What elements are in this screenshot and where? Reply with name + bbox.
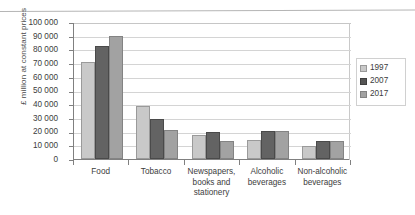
bar: [275, 131, 289, 159]
legend-label: 1997: [370, 64, 388, 72]
bar: [109, 36, 123, 159]
bar: [220, 141, 234, 159]
bar: [330, 141, 344, 159]
bar: [95, 46, 109, 159]
chart-legend: 199720072017: [356, 58, 406, 106]
bar: [261, 131, 275, 159]
bar: [316, 141, 330, 159]
bar: [247, 140, 261, 159]
bar: [302, 146, 316, 159]
x-tick-mark: [128, 160, 129, 165]
bar-group: [302, 22, 344, 159]
bar-group: [136, 22, 178, 159]
x-tick-mark: [73, 160, 74, 165]
bar-group: [247, 22, 289, 159]
y-tick-label: 100 000: [0, 19, 58, 27]
bar-group: [192, 22, 234, 159]
legend-swatch-icon: [360, 65, 367, 72]
bar: [150, 119, 164, 159]
y-tick-label: 50 000: [0, 87, 58, 95]
y-tick-label: 40 000: [0, 101, 58, 109]
legend-swatch-icon: [360, 91, 367, 98]
plot-area: [73, 23, 350, 160]
bar: [81, 62, 95, 159]
legend-swatch-icon: [360, 78, 367, 85]
x-tick-mark: [295, 160, 296, 165]
legend-label: 2017: [370, 90, 388, 98]
grouped-bar-chart: £ million at constant prices 100 00090 0…: [0, 0, 415, 215]
x-tick-mark: [239, 160, 240, 165]
y-tick-label: 30 000: [0, 115, 58, 123]
bar: [164, 130, 178, 159]
bar: [206, 132, 220, 159]
x-tick-mark: [350, 160, 351, 165]
y-tick-label: 70 000: [0, 60, 58, 68]
y-tick-label: 80 000: [0, 46, 58, 54]
y-tick-label: 0: [0, 156, 58, 164]
bar-group: [81, 22, 123, 159]
x-category-label: Non-alcoholicbeverages: [286, 167, 358, 188]
legend-item[interactable]: 2007: [360, 75, 403, 88]
y-tick-label: 10 000: [0, 142, 58, 150]
bar: [192, 135, 206, 159]
y-tick-label: 60 000: [0, 74, 58, 82]
y-tick-label: 20 000: [0, 128, 58, 136]
legend-item[interactable]: 1997: [360, 62, 403, 75]
y-tick-label: 90 000: [0, 33, 58, 41]
bar: [136, 106, 150, 159]
x-tick-mark: [184, 160, 185, 165]
legend-item[interactable]: 2017: [360, 88, 403, 101]
legend-label: 2007: [370, 77, 388, 85]
